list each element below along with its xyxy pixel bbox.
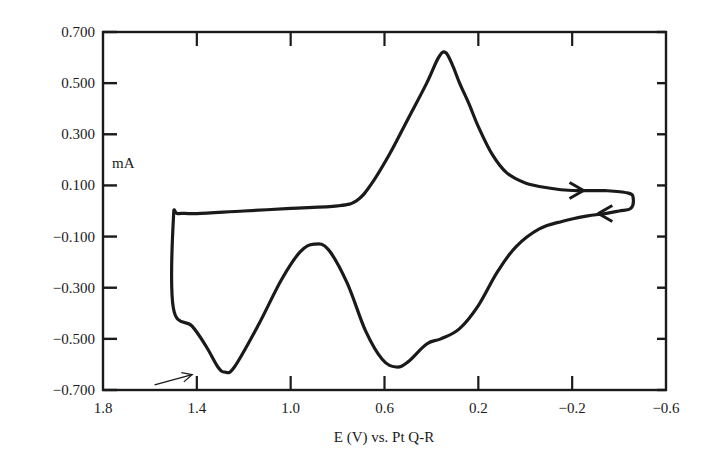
x-tick-label: 0.2 bbox=[469, 400, 488, 416]
y-tick-label: 0.300 bbox=[61, 126, 95, 142]
x-tick-label: 1.8 bbox=[94, 400, 113, 416]
x-tick-label: −0.6 bbox=[652, 400, 680, 416]
y-tick-label: 0.700 bbox=[61, 24, 95, 40]
y-tick-label: −0.300 bbox=[53, 280, 95, 296]
y-tick-label: −0.700 bbox=[53, 382, 95, 398]
cyclic-voltammogram-chart: 0.7000.5000.3000.100−0.100−0.300−0.500−0… bbox=[0, 0, 713, 468]
x-tick-label: −0.2 bbox=[559, 400, 586, 416]
x-axis-ticks: 1.81.41.00.60.2−0.2−0.6 bbox=[94, 32, 680, 416]
x-tick-label: 0.6 bbox=[375, 400, 394, 416]
y-tick-label: 0.100 bbox=[61, 177, 95, 193]
x-tick-label: 1.4 bbox=[187, 400, 206, 416]
y-tick-label: 0.500 bbox=[61, 75, 95, 91]
y-tick-label: −0.500 bbox=[53, 331, 95, 347]
y-axis-ticks: 0.7000.5000.3000.100−0.100−0.300−0.500−0… bbox=[53, 24, 666, 398]
x-tick-label: 1.0 bbox=[281, 400, 300, 416]
plot-border bbox=[103, 32, 666, 390]
plot-frame bbox=[103, 32, 666, 390]
y-axis-label: mA bbox=[112, 155, 135, 171]
cv-curve bbox=[172, 52, 634, 373]
y-tick-label: −0.100 bbox=[53, 229, 95, 245]
x-axis-label: E (V) vs. Pt Q-R bbox=[334, 429, 434, 446]
